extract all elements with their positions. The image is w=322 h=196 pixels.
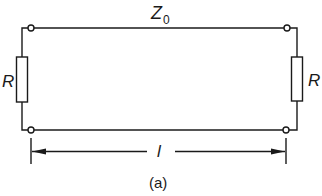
circuit-drawing [0,0,322,196]
figure-caption: (a) [149,175,167,190]
right-lower-wire [289,101,297,130]
right-upper-wire [290,28,297,57]
terminal-top-left [28,25,34,31]
terminal-top-right [284,25,290,31]
impedance-subscript: 0 [163,13,170,27]
arrowhead-right-icon [271,149,285,155]
resistor-right-label: R [308,72,320,89]
transmission-line-diagram: Z0 R R l (a) [0,0,322,196]
length-label: l [157,143,161,160]
resistor-left-label: R [2,73,14,90]
left-upper-wire [22,28,28,57]
terminal-bottom-right [283,127,289,133]
impedance-label: Z0 [151,4,170,22]
impedance-symbol: Z [151,3,162,23]
left-lower-wire [22,102,28,130]
arrowhead-left-icon [32,149,46,155]
terminal-bottom-left [28,127,34,133]
right-resistor [292,57,303,101]
left-resistor [17,57,28,102]
